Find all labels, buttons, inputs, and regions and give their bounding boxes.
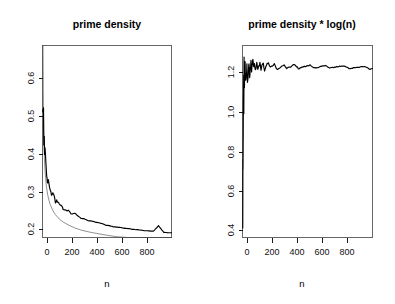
y-tick-label-left-1: 0.3	[26, 186, 36, 199]
x-axis-label-right: n	[299, 278, 304, 289]
y-tick-label-right-0: 0.4	[226, 224, 236, 237]
x-tick-label-right-3: 600	[314, 247, 329, 257]
x-tick-label-left-1: 200	[64, 247, 79, 257]
y-tick-label-left-0: 0.2	[26, 223, 36, 236]
chart-title-right: prime density * log(n)	[248, 18, 355, 30]
x-axis-right: 0 200 400 600 800	[244, 238, 354, 258]
x-tick-label-right-0: 0	[244, 247, 249, 257]
y-axis-left: 0.6 0.5 0.4 0.3 0.2	[26, 72, 43, 236]
prime-density-svg: prime density 0.6 0.5 0.4 0.3 0.2	[0, 0, 197, 304]
x-tick-label-right-2: 400	[289, 247, 304, 257]
y-tick-label-right-2: 0.8	[226, 146, 236, 159]
chart-panel-prime-density-log: prime density * log(n) 1.2 1.0 0.8 0.6 0…	[197, 0, 394, 304]
series-line-prime-density	[43, 108, 172, 233]
y-tick-label-right-1: 0.6	[226, 185, 236, 198]
x-tick-label-right-4: 800	[339, 247, 354, 257]
series-line-prime-density-log	[243, 57, 373, 228]
plot-box-right	[243, 46, 373, 238]
y-tick-label-left-2: 0.4	[26, 148, 36, 161]
y-tick-label-left-3: 0.5	[26, 110, 36, 123]
x-tick-label-left-2: 400	[89, 247, 104, 257]
figure-canvas: prime density 0.6 0.5 0.4 0.3 0.2	[0, 0, 395, 304]
x-axis-left: 0 200 400 600 800	[44, 238, 154, 258]
y-tick-label-right-3: 1.0	[226, 106, 236, 119]
y-tick-label-left-4: 0.6	[26, 72, 36, 85]
chart-panel-prime-density: prime density 0.6 0.5 0.4 0.3 0.2	[0, 0, 197, 304]
chart-title-left: prime density	[73, 18, 141, 30]
y-tick-label-right-4: 1.2	[226, 66, 236, 79]
series-line-reference-left	[43, 46, 172, 238]
x-tick-label-left-0: 0	[44, 247, 49, 257]
x-tick-label-right-1: 200	[264, 247, 279, 257]
plot-box-left	[43, 46, 172, 238]
x-tick-label-left-4: 800	[139, 247, 154, 257]
y-axis-right: 1.2 1.0 0.8 0.6 0.4	[226, 66, 243, 237]
prime-density-log-svg: prime density * log(n) 1.2 1.0 0.8 0.6 0…	[197, 0, 394, 304]
x-tick-label-left-3: 600	[114, 247, 129, 257]
x-axis-label-left: n	[104, 278, 109, 289]
